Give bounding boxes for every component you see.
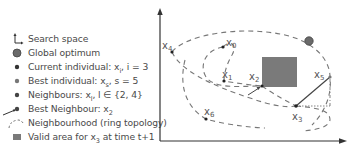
label-x0: x0 xyxy=(226,37,236,50)
global-optimum-marker xyxy=(305,37,313,45)
point-x0 xyxy=(221,45,224,48)
point-x6 xyxy=(204,117,207,120)
x3-to-x5-line xyxy=(296,77,330,106)
valid-area-rect xyxy=(262,57,297,87)
best-neighbour-arrow xyxy=(248,88,259,95)
search-space-figure: x0 x1 x2 x3 x4 x5 x6 xyxy=(0,0,361,147)
point-x2 xyxy=(260,84,263,87)
point-x3 xyxy=(294,104,298,108)
x-axis-arrow-icon xyxy=(339,138,347,144)
label-x6: x6 xyxy=(204,106,215,119)
y-axis-arrow-icon xyxy=(157,8,162,15)
point-x5 xyxy=(328,75,331,78)
label-x4: x4 xyxy=(162,40,173,53)
point-labels: x0 x1 x2 x3 x4 x5 x6 xyxy=(162,37,324,124)
label-x5: x5 xyxy=(314,69,324,82)
individuals xyxy=(170,45,331,120)
label-x2: x2 xyxy=(249,71,259,84)
label-x3: x3 xyxy=(292,111,302,124)
